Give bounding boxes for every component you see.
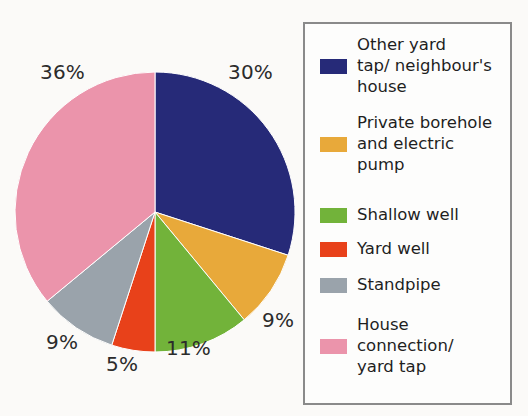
legend-label-other-yard-tap: Other yardtap/ neighbour'shouse [357, 34, 507, 97]
pie-label-standpipe: 9% [46, 330, 78, 354]
legend-label-line: Standpipe [357, 274, 507, 295]
legend-swatch-shallow-well [320, 208, 347, 223]
pie-label-house-connection: 36% [40, 60, 85, 84]
legend-label-line: connection/ [357, 335, 507, 356]
pie-label-yard-well: 5% [106, 352, 138, 376]
legend-swatch-standpipe [320, 278, 347, 293]
legend: Other yardtap/ neighbour'shousePrivate b… [303, 22, 512, 405]
legend-swatch-private-borehole [320, 137, 347, 152]
legend-label-line: tap/ neighbour's [357, 55, 507, 76]
legend-label-yard-well: Yard well [357, 238, 507, 259]
legend-label-line: pump [357, 154, 507, 175]
legend-label-line: Shallow well [357, 204, 507, 225]
legend-label-line: house [357, 76, 507, 97]
legend-label-shallow-well: Shallow well [357, 204, 507, 225]
legend-label-line: House [357, 314, 507, 335]
legend-label-standpipe: Standpipe [357, 274, 507, 295]
legend-swatch-other-yard-tap [320, 59, 347, 74]
legend-swatch-house-connection [320, 339, 347, 354]
pie-label-other-yard-tap: 30% [228, 60, 273, 84]
pie-chart-figure: 36% 30% 9% 11% 5% 9% Other yardtap/ neig… [0, 0, 528, 416]
legend-label-line: yard tap [357, 356, 507, 377]
legend-label-private-borehole: Private boreholeand electricpump [357, 112, 507, 175]
legend-label-line: Private borehole [357, 112, 507, 133]
legend-swatch-yard-well [320, 242, 347, 257]
legend-label-house-connection: Houseconnection/yard tap [357, 314, 507, 377]
legend-label-line: Other yard [357, 34, 507, 55]
pie-label-private-borehole: 9% [262, 308, 294, 332]
legend-label-line: and electric [357, 133, 507, 154]
pie-label-shallow-well: 11% [166, 336, 211, 360]
legend-label-line: Yard well [357, 238, 507, 259]
